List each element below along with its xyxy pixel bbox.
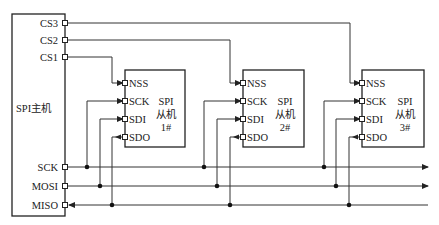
slave-2-pin-sdo-label: SDO — [247, 132, 268, 143]
slave-3-sck-junction — [322, 165, 327, 170]
slave-2-sdo-wire — [230, 137, 241, 205]
master-cs3-pin — [63, 21, 68, 26]
master-cs2-pin — [63, 38, 68, 43]
slave-3-miso-junction — [347, 203, 352, 208]
slave-3-mosi-junction — [334, 184, 339, 189]
slave-2-pin-sdi-label: SDI — [247, 114, 264, 125]
cs3-wire — [67, 23, 360, 83]
master-miso-pin — [63, 203, 68, 208]
slave-2-miso-junction — [228, 203, 233, 208]
slave-1-sck-junction — [85, 165, 90, 170]
slave-2-sdi-pin — [241, 117, 246, 122]
slave-3-pin-sdo-label: SDO — [366, 132, 387, 143]
slave-3-number: 3# — [400, 122, 411, 133]
slave-3-sdo-arrow-icon — [352, 135, 358, 140]
chip-select-wires — [67, 23, 360, 83]
master-pin-miso-label: MISO — [32, 200, 59, 211]
master-pin-cs1-label: CS1 — [40, 52, 58, 63]
slave-1-pin-sdi-label: SDI — [129, 114, 146, 125]
bus-lines — [67, 167, 428, 205]
slave-2-pin-nss-label: NSS — [247, 78, 266, 89]
slave-3-pin-sck-label: SCK — [366, 96, 387, 107]
slave-1-sck-pin — [123, 99, 128, 104]
slave-3-nss-pin — [360, 81, 365, 86]
slave-3-sdo-pin — [360, 135, 365, 140]
slave-1-pin-sdo-label: SDO — [129, 132, 150, 143]
spi-master: SPI主机 CS3 CS2 CS1 SCK MOSI MISO — [12, 14, 65, 216]
slave-2-title: SPI — [277, 96, 293, 107]
master-sck-pin — [63, 165, 68, 170]
slave-3-sdi-pin — [360, 117, 365, 122]
slave-1-sdo-arrow-icon — [115, 135, 121, 140]
master-label: SPI主机 — [16, 102, 52, 114]
slave-1-nss-pin — [123, 81, 128, 86]
master-pin-mosi-label: MOSI — [32, 181, 59, 192]
spi-slave-2: SPI 从机 2# NSS SCK SDI SDO — [202, 70, 304, 207]
slave-3-pin-nss-label: NSS — [366, 78, 385, 89]
slave-1-sdo-pin — [123, 135, 128, 140]
slave-3-sdi-wire — [336, 119, 360, 186]
slave-3-pin-sdi-label: SDI — [366, 114, 383, 125]
slave-2-sck-wire — [204, 101, 241, 167]
master-pin-sck-label: SCK — [38, 162, 59, 173]
slave-3-sck-pin — [360, 99, 365, 104]
slave-3-title: SPI — [397, 96, 413, 107]
slave-2-pin-sck-label: SCK — [247, 96, 268, 107]
slave-1-number: 1# — [161, 122, 172, 133]
slave-1-sck-wire — [87, 101, 123, 167]
slave-1-title: SPI — [158, 96, 174, 107]
pin-markers — [63, 21, 365, 208]
slave-3-sck-wire — [324, 101, 360, 167]
slave-1-mosi-junction — [98, 184, 103, 189]
spi-bus-diagram: SPI主机 CS3 CS2 CS1 SCK MOSI MISO SPI 从机 1… — [0, 0, 439, 225]
slave-2-sck-junction — [202, 165, 207, 170]
slave-2-sdo-pin — [241, 135, 246, 140]
spi-slave-3: SPI 从机 3# NSS SCK SDI SDO — [322, 70, 424, 207]
master-mosi-pin — [63, 184, 68, 189]
master-pin-cs2-label: CS2 — [40, 35, 58, 46]
slave-2-sck-pin — [241, 99, 246, 104]
slave-2-mosi-junction — [215, 184, 220, 189]
slave-1-subtitle: 从机 — [156, 108, 177, 120]
slave-1-pin-nss-label: NSS — [129, 78, 148, 89]
slave-1-pin-sck-label: SCK — [129, 96, 150, 107]
slave-2-nss-pin — [241, 81, 246, 86]
slave-2-sdo-arrow-icon — [233, 135, 239, 140]
slave-1-sdo-wire — [112, 137, 123, 205]
slave-2-number: 2# — [280, 122, 291, 133]
master-cs1-pin — [63, 55, 68, 60]
master-pin-cs3-label: CS3 — [40, 18, 58, 29]
slave-3-subtitle: 从机 — [395, 108, 416, 120]
slave-2-subtitle: 从机 — [275, 108, 296, 120]
slave-3-sdo-wire — [349, 137, 360, 205]
slave-1-sdi-pin — [123, 117, 128, 122]
slave-2-sdi-wire — [217, 119, 241, 186]
cs1-wire — [67, 57, 123, 83]
spi-slave-1: SPI 从机 1# NSS SCK SDI SDO — [85, 70, 185, 207]
slave-1-miso-junction — [110, 203, 115, 208]
